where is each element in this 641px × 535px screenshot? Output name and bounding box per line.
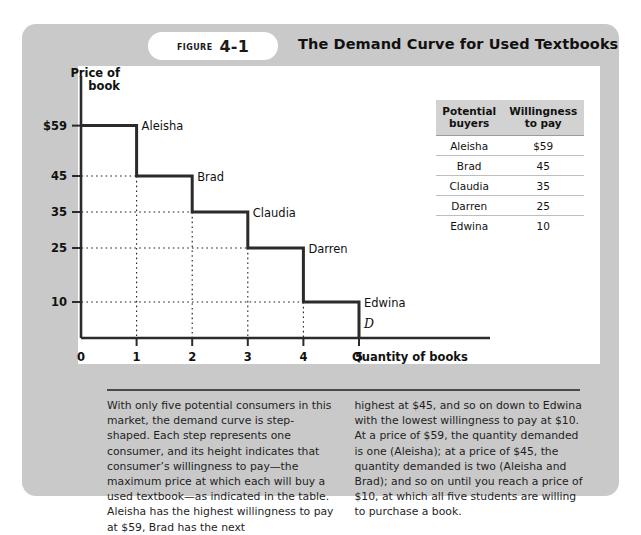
x-axis-tick-label: 4	[299, 350, 307, 364]
y-axis-tick-label: 45	[51, 169, 67, 183]
x-axis-tick-label: 2	[188, 350, 196, 364]
x-axis-tick-label: 0	[77, 350, 85, 364]
y-axis-tick-label: 10	[51, 295, 67, 309]
y-axis-tick-label: 25	[51, 241, 67, 255]
x-axis-tick-label: 1	[133, 350, 141, 364]
step-label-brad: Brad	[197, 170, 224, 184]
x-axis-tick-label: 3	[244, 350, 252, 364]
step-label-claudia: Claudia	[253, 206, 296, 220]
demand-curve-label: D	[363, 316, 374, 331]
y-axis-tick-label: 35	[51, 205, 67, 219]
x-axis-title: Quantity of books	[352, 350, 468, 364]
demand-curve-plot: $5945352510012345Quantity of booksAleish…	[22, 24, 619, 496]
step-label-edwina: Edwina	[364, 296, 406, 310]
step-label-darren: Darren	[308, 242, 347, 256]
y-axis-tick-label: $59	[43, 119, 67, 133]
demand-curve	[81, 126, 359, 338]
step-label-aleisha: Aleisha	[142, 119, 184, 133]
